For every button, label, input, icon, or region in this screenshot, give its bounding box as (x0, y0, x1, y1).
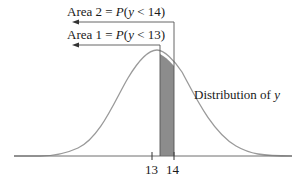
curve-label: Distribution of y (194, 88, 280, 101)
area2-func: P (116, 4, 124, 19)
normal-distribution-diagram: Area 2 = P(y < 14) Area 1 = P(y < 13) Di… (0, 0, 302, 182)
curve-label-var: y (274, 87, 280, 102)
area1-label: Area 1 = P(y < 13) (67, 28, 165, 41)
area2-rel: < 14) (134, 4, 165, 19)
area1-func: P (116, 27, 124, 42)
shaded-area-13-to-14 (160, 54, 174, 156)
area2-arrowhead (72, 20, 79, 25)
area1-prefix: Area 1 = (67, 27, 116, 42)
area1-rel: < 13) (134, 27, 165, 42)
tick-label-13: 13 (145, 163, 158, 176)
area2-label: Area 2 = P(y < 14) (67, 5, 165, 18)
tick-label-14: 14 (166, 163, 179, 176)
curve-label-text: Distribution of (194, 87, 274, 102)
bell-curve (14, 50, 292, 156)
area1-arrowhead (72, 43, 79, 48)
area2-prefix: Area 2 = (67, 4, 116, 19)
